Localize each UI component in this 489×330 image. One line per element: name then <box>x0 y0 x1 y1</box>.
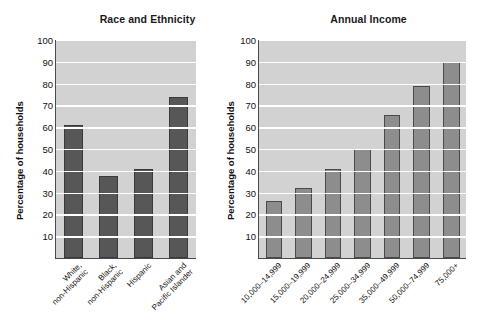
gridline <box>56 84 196 85</box>
y-tick-label: 20 <box>25 209 53 220</box>
bar <box>64 125 84 258</box>
gridline <box>56 62 196 63</box>
y-tick-label: 70 <box>228 100 256 111</box>
y-tick-label: 10 <box>228 231 256 242</box>
gridline <box>259 236 466 237</box>
y-tick-label: 90 <box>25 56 53 67</box>
plot-area-right <box>258 40 466 259</box>
y-tick-label: 10 <box>25 231 53 242</box>
y-tick-label: 80 <box>25 78 53 89</box>
gridline <box>259 105 466 106</box>
x-tick-label: Hispanic <box>125 261 153 289</box>
figure-two-bar-charts: Race and Ethnicity Percentage of househo… <box>0 0 489 330</box>
gridline <box>56 171 196 172</box>
gridline <box>259 149 466 150</box>
bar <box>325 169 342 258</box>
gridline <box>259 214 466 215</box>
y-tick-label: 40 <box>25 165 53 176</box>
gridline <box>259 127 466 128</box>
y-tick-label: 50 <box>228 144 256 155</box>
y-tick-label: 60 <box>228 122 256 133</box>
y-tick-label: 30 <box>228 187 256 198</box>
y-tick-label: 70 <box>25 100 53 111</box>
y-tick-label: 30 <box>25 187 53 198</box>
x-tick-label: 75,000+ <box>434 261 461 288</box>
gridline <box>56 214 196 215</box>
bar <box>169 97 189 258</box>
gridline <box>56 105 196 106</box>
bar <box>443 62 460 258</box>
bar <box>99 176 119 258</box>
y-tick-label: 20 <box>228 209 256 220</box>
bar <box>266 201 283 258</box>
chart-panel-race-and-ethnicity: Race and Ethnicity Percentage of househo… <box>0 0 215 330</box>
gridline <box>259 193 466 194</box>
y-tick-label: 100 <box>228 35 256 46</box>
x-axis-labels-left: White,non-HispanicBlack,non-HispanicHisp… <box>0 259 215 329</box>
plot-area-left <box>55 40 196 259</box>
y-tick-label: 50 <box>25 144 53 155</box>
x-axis-labels-right: 10,000–14,99915,000–19,99920,000–24,9992… <box>212 259 489 329</box>
x-tick-label: Black,non-Hispanic <box>78 261 124 307</box>
y-tick-label: 40 <box>228 165 256 176</box>
y-tick-label: 80 <box>228 78 256 89</box>
y-tick-label: 90 <box>228 56 256 67</box>
y-tick-label: 60 <box>25 122 53 133</box>
x-tick-label: White,non-Hispanic <box>43 261 89 307</box>
bar <box>354 149 371 258</box>
gridline <box>56 127 196 128</box>
gridline <box>259 84 466 85</box>
gridline <box>56 236 196 237</box>
gridline <box>259 62 466 63</box>
y-tick-label: 100 <box>25 35 53 46</box>
bar <box>134 169 154 258</box>
gridline <box>56 193 196 194</box>
bar <box>295 188 312 258</box>
chart-panel-annual-income: Annual Income Percentage of households 1… <box>212 0 489 330</box>
gridline <box>56 40 196 41</box>
gridline <box>56 149 196 150</box>
gridline <box>259 171 466 172</box>
gridline <box>259 40 466 41</box>
